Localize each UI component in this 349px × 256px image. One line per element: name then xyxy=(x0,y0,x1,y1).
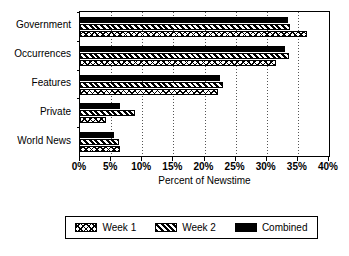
bar-group xyxy=(80,102,329,123)
bar-combined xyxy=(80,17,288,23)
bar-group xyxy=(80,74,329,95)
bar-combined xyxy=(80,132,114,138)
y-axis-label-features: Features xyxy=(32,77,71,88)
y-axis-tick xyxy=(77,98,80,99)
bar-chart: GovernmentOccurrencesFeaturesPrivateWorl… xyxy=(0,0,349,256)
bar-week2 xyxy=(80,110,135,116)
bar-week1 xyxy=(80,117,106,123)
legend-item-week1[interactable]: Week 1 xyxy=(75,222,136,234)
bar-week1 xyxy=(80,89,218,95)
y-axis-label-occurrences: Occurrences xyxy=(14,48,71,59)
y-axis-tick xyxy=(77,41,80,42)
y-axis-tick xyxy=(77,127,80,128)
bar-week1 xyxy=(80,60,276,66)
y-axis-label-world-news: World News xyxy=(17,135,71,146)
bar-week1 xyxy=(80,146,120,152)
bar-week1 xyxy=(80,31,307,37)
bar-group xyxy=(80,16,329,37)
x-axis-tick-labels: 0%5%10%15%20%25%30%35%40% xyxy=(0,161,349,174)
bar-week2 xyxy=(80,53,289,59)
y-axis-label-private: Private xyxy=(40,106,71,117)
legend-swatch-week1 xyxy=(75,223,97,232)
legend-item-combined[interactable]: Combined xyxy=(235,222,308,234)
legend-swatch-week2 xyxy=(155,223,177,232)
bar-combined xyxy=(80,75,220,81)
legend-label: Week 1 xyxy=(102,222,136,234)
y-axis-label-government: Government xyxy=(16,19,71,30)
plot-area xyxy=(79,11,330,157)
y-axis-labels: GovernmentOccurrencesFeaturesPrivateWorl… xyxy=(0,11,75,157)
bar-combined xyxy=(80,46,285,52)
legend-label: Week 2 xyxy=(182,222,216,234)
chart-legend: Week 1Week 2Combined xyxy=(65,216,318,239)
legend-item-week2[interactable]: Week 2 xyxy=(155,222,216,234)
legend-swatch-combined xyxy=(235,223,257,232)
bar-combined xyxy=(80,103,120,109)
bar-group xyxy=(80,131,329,152)
y-axis-tick xyxy=(77,12,80,13)
bar-week2 xyxy=(80,139,119,145)
bar-week2 xyxy=(80,24,290,30)
bar-group xyxy=(80,45,329,66)
legend-label: Combined xyxy=(262,222,308,234)
x-axis-title: Percent of Newstime xyxy=(79,175,330,187)
bar-week2 xyxy=(80,82,223,88)
y-axis-tick xyxy=(77,70,80,71)
x-axis-tick-label: 40% xyxy=(308,161,348,173)
